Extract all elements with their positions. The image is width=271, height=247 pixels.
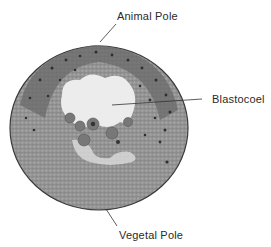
embryo-illustration [0,0,271,247]
blastula-figure: Animal Pole Blastocoel Vegetal Pole [0,0,271,247]
vegetal-pole-leader [106,209,117,226]
animal-pole-label: Animal Pole [117,10,178,22]
vegetal-pole-label: Vegetal Pole [119,229,183,241]
blastocoel-label: Blastocoel [212,93,265,105]
embryo [10,45,188,210]
animal-pole-leader [100,24,116,42]
